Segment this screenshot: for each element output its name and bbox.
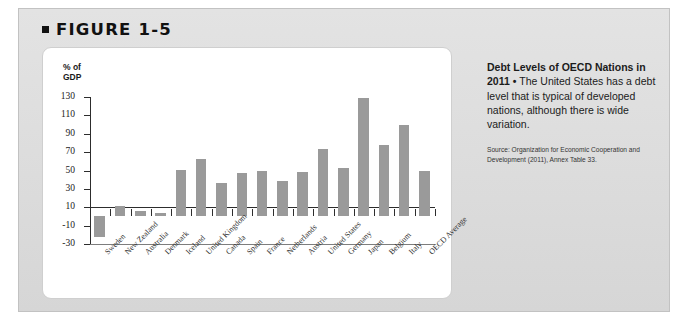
bar: [155, 213, 166, 217]
y-tick: 70: [84, 152, 90, 153]
bar-slot: [171, 97, 191, 244]
y-axis-title: % of GDP: [63, 62, 81, 82]
caption-text: Debt Levels of OECD Nations in 2011 • Th…: [487, 60, 657, 131]
bar: [196, 159, 207, 216]
y-tick-label: 70: [66, 146, 76, 156]
bar: [297, 172, 308, 216]
bar-slot: [131, 97, 151, 244]
y-tick-label: 50: [66, 165, 76, 175]
y-tick: 110: [84, 115, 90, 116]
figure-root: FIGURE 1-5 % of GDP 1301109070503010-10-…: [0, 0, 692, 334]
bar-slot: [293, 97, 313, 244]
bar-slot: [252, 97, 272, 244]
bar: [176, 170, 187, 217]
bar: [379, 145, 390, 217]
bar: [135, 211, 146, 217]
y-tick: 10: [84, 207, 90, 208]
chart-card: % of GDP 1301109070503010-10-30 SwedenNe…: [42, 47, 452, 299]
caption-column: Debt Levels of OECD Nations in 2011 • Th…: [487, 60, 657, 165]
bar: [318, 149, 329, 216]
y-tick-label: 10: [66, 201, 76, 211]
bar-slot: [374, 97, 394, 244]
bar: [338, 168, 349, 217]
y-tick-label: -10: [62, 220, 75, 230]
bar-slot: [394, 97, 414, 244]
bar: [257, 171, 268, 217]
bar: [399, 125, 410, 217]
y-tick-label: 110: [61, 109, 75, 119]
y-tick: -10: [84, 226, 90, 227]
bar-slot: [313, 97, 333, 244]
bar-slot: [334, 97, 354, 244]
bar: [216, 183, 227, 216]
bar: [115, 206, 126, 216]
y-tick-label: 30: [66, 183, 76, 193]
bar: [277, 181, 288, 217]
caption-source: Source: Organization for Economic Cooper…: [487, 145, 657, 164]
bar-slot: [110, 97, 130, 244]
figure-title: FIGURE 1-5: [42, 20, 172, 39]
y-tick-label: -30: [62, 238, 75, 248]
y-tick: 130: [84, 97, 90, 98]
plot-area: 1301109070503010-10-30: [90, 97, 435, 244]
bar-slot: [191, 97, 211, 244]
bar: [358, 98, 369, 217]
y-tick: 30: [84, 189, 90, 190]
y-tick: 90: [84, 134, 90, 135]
x-tick-label-group: SwedenNew ZealandAustraliaDenmarkIceland…: [90, 244, 435, 304]
bar-series: [90, 97, 435, 244]
bar: [419, 171, 430, 217]
y-tick: 50: [84, 171, 90, 172]
bar-slot: [415, 97, 435, 244]
caption-separator: •: [510, 75, 520, 87]
bar-slot: [273, 97, 293, 244]
bar: [237, 173, 248, 216]
bar: [94, 216, 105, 236]
figure-label: FIGURE 1-5: [56, 20, 172, 39]
y-tick-label: 130: [61, 91, 75, 101]
bar-slot: [212, 97, 232, 244]
square-bullet-icon: [42, 26, 49, 33]
bar-slot: [90, 97, 110, 244]
x-tick: [435, 209, 436, 216]
y-tick-label: 90: [66, 128, 76, 138]
